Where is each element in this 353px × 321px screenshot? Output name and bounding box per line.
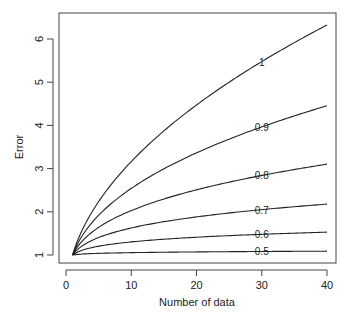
x-axis: 010203040 xyxy=(63,270,333,291)
error-vs-data-chart: 010203040 123456 10.90.80.70.60.5 Number… xyxy=(0,0,353,321)
y-tick-label: 1 xyxy=(33,252,45,258)
curve-label: 0.9 xyxy=(255,122,269,133)
x-tick-label: 20 xyxy=(190,279,202,291)
y-tick-label: 2 xyxy=(33,209,45,215)
y-tick-label: 3 xyxy=(33,166,45,172)
curve-label: 1 xyxy=(259,57,265,68)
x-tick-label: 0 xyxy=(63,279,69,291)
x-axis-label: Number of data xyxy=(159,296,236,308)
y-axis: 123456 xyxy=(33,36,53,258)
curve-0.9 xyxy=(73,106,327,255)
curve-label: 0.8 xyxy=(255,170,269,181)
y-tick-label: 5 xyxy=(33,79,45,85)
curve-label: 0.5 xyxy=(255,246,269,257)
x-tick-label: 40 xyxy=(321,279,333,291)
y-axis-label: Error xyxy=(13,134,25,159)
curves xyxy=(73,25,327,255)
curve-0.7 xyxy=(73,204,327,255)
y-tick-label: 4 xyxy=(33,122,45,128)
y-tick-label: 6 xyxy=(33,36,45,42)
curve-label: 0.7 xyxy=(255,205,269,216)
curve-labels: 10.90.80.70.60.5 xyxy=(255,57,269,258)
x-tick-label: 30 xyxy=(256,279,268,291)
curve-0.5 xyxy=(73,251,327,255)
curve-label: 0.6 xyxy=(255,229,269,240)
x-tick-label: 10 xyxy=(125,279,137,291)
curve-0.8 xyxy=(73,164,327,255)
